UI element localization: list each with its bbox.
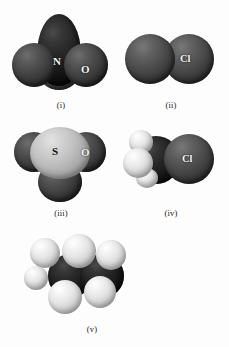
caption-v: (v) <box>22 324 162 334</box>
caption-ii: (ii) <box>118 100 224 110</box>
molecule-iv-stage: Cl <box>118 120 224 204</box>
molecule-iii-stage: S O <box>8 120 114 204</box>
caption-i: (i) <box>8 100 114 110</box>
atom-oxygen-left <box>12 43 56 87</box>
atom-sulfur-center <box>30 127 90 179</box>
atom-hydrogen-6 <box>84 276 116 308</box>
molecule-v-stage <box>22 232 162 322</box>
molecule-panel-v: (v) <box>22 232 162 342</box>
molecule-panel-iv: Cl (iv) <box>118 120 224 224</box>
atom-hydrogen-left <box>123 148 153 178</box>
figure-sheet: N O (i) Cl (ii) S O (iii) <box>0 0 229 347</box>
atom-chlorine-left <box>125 34 175 84</box>
molecule-ii-stage: Cl <box>118 12 224 96</box>
caption-iv: (iv) <box>118 208 224 218</box>
molecule-panel-i: N O (i) <box>8 12 114 116</box>
molecule-panel-ii: Cl (ii) <box>118 12 224 116</box>
atom-hydrogen-4 <box>24 266 48 290</box>
caption-iii: (iii) <box>8 208 114 218</box>
atom-oxygen-right <box>64 43 108 87</box>
molecule-i-stage: N O <box>8 12 114 96</box>
atom-chlorine <box>164 134 214 184</box>
atom-hydrogen-3 <box>96 240 126 270</box>
molecule-panel-iii: S O (iii) <box>8 120 114 224</box>
atom-hydrogen-2 <box>62 234 96 268</box>
atom-hydrogen-1 <box>30 238 60 268</box>
atom-hydrogen-5 <box>48 280 82 314</box>
